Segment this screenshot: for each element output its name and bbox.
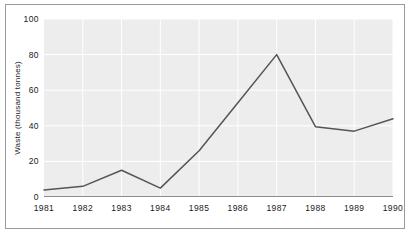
plot-area-wrapper: [44, 19, 393, 197]
x-tick-label: 1989: [344, 203, 365, 213]
y-tick-label: 20: [6, 156, 39, 166]
y-tick-label: 60: [6, 85, 39, 95]
x-tick-label: 1987: [266, 203, 287, 213]
x-tick-label: 1988: [305, 203, 326, 213]
y-axis-tick-labels: 020406080100: [0, 19, 39, 197]
y-tick-label: 100: [6, 14, 39, 24]
x-tick-label: 1986: [228, 203, 249, 213]
data-series-waste: [44, 19, 393, 197]
x-tick-label: 1985: [189, 203, 210, 213]
x-axis-line: [44, 196, 393, 197]
x-axis-tick-labels: 1981198219831984198519861987198819891990: [44, 203, 393, 217]
x-tick-label: 1984: [150, 203, 171, 213]
y-tick-label: 40: [6, 121, 39, 131]
x-tick-label: 1990: [383, 203, 404, 213]
y-tick-label: 0: [6, 192, 39, 202]
series-line-waste: [44, 55, 393, 190]
x-tick-label: 1981: [34, 203, 55, 213]
chart-figure: Waste (thousand tonnes) 020406080100 198…: [0, 0, 410, 234]
x-tick-label: 1983: [111, 203, 132, 213]
x-tick-label: 1982: [73, 203, 94, 213]
y-tick-label: 80: [6, 50, 39, 60]
